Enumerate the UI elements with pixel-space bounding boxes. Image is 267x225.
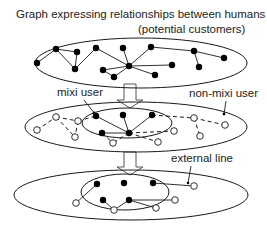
mixi-node <box>152 72 158 78</box>
mixi-node <box>72 66 78 72</box>
non-mixi-node <box>153 205 160 212</box>
mixi-node <box>94 181 100 187</box>
mixi-node <box>149 112 155 118</box>
non-mixi-node <box>171 128 178 135</box>
mixi-node <box>148 44 154 50</box>
dashed-edge <box>129 131 174 133</box>
mixi-node <box>34 60 40 66</box>
mixi-node <box>169 62 175 68</box>
dashed-edge <box>194 118 225 125</box>
mixi-node <box>126 197 132 203</box>
panel-mixi-subset <box>25 102 247 152</box>
non-mixi-node <box>73 200 80 207</box>
external-line-pointer <box>188 166 191 183</box>
non-mixi-node <box>53 114 60 121</box>
external-line-pointer-tip <box>187 182 190 185</box>
non-mixi-node <box>172 197 179 204</box>
mixi-node <box>120 112 126 118</box>
mixi-node <box>100 197 106 203</box>
mixi-node <box>196 64 202 70</box>
edge <box>194 51 224 58</box>
non-mixi-node <box>197 133 204 140</box>
non-mixi-node <box>191 115 198 122</box>
graph-diagram <box>0 0 267 225</box>
panel-full-graph <box>34 38 247 88</box>
panel-external-lines <box>14 170 248 220</box>
mixi-node <box>121 180 127 186</box>
non-mixi-node <box>34 127 41 134</box>
dashed-edge <box>152 115 194 118</box>
edge <box>129 200 156 208</box>
outer-ellipse <box>35 38 247 88</box>
mixi-node <box>93 45 99 51</box>
mixi-node <box>150 180 156 186</box>
mixi-node <box>191 48 197 54</box>
mixi-node <box>74 49 80 55</box>
non-mixi-node <box>75 118 82 125</box>
edge <box>56 49 75 69</box>
mixi-node <box>100 67 106 73</box>
edge <box>76 184 97 203</box>
mixi-node <box>99 130 105 136</box>
edge <box>129 115 152 133</box>
non-mixi-node <box>191 183 198 190</box>
edge <box>129 65 172 66</box>
mixi-node <box>126 63 132 69</box>
non-mixi-node <box>155 139 162 146</box>
mixi-node <box>221 55 227 61</box>
edge <box>151 47 194 51</box>
non-mixi-node <box>110 140 117 147</box>
edge <box>129 47 151 66</box>
mixi-node <box>120 45 126 51</box>
non-mixi-user-pointer-tip <box>223 113 226 116</box>
outer-ellipse <box>14 170 248 220</box>
non-mixi-node <box>111 207 118 214</box>
mixi-node <box>93 113 99 119</box>
edge <box>129 66 155 75</box>
mixi-node <box>111 74 117 80</box>
down-arrow-2 <box>117 152 143 175</box>
mixi-node <box>53 46 59 52</box>
non-mixi-node <box>72 134 79 141</box>
non-mixi-node <box>222 122 229 129</box>
mixi-node <box>126 130 132 136</box>
